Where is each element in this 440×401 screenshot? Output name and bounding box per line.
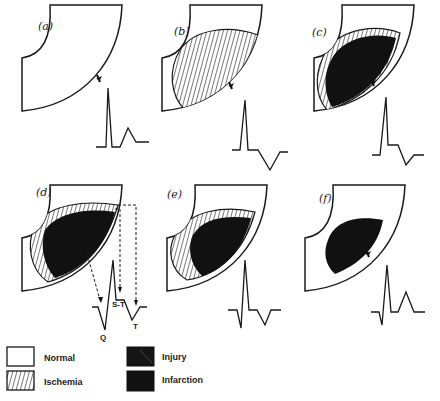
- legend-swatch-injury: [127, 347, 154, 366]
- ecg-trace-injury: [372, 97, 424, 165]
- panel-e: (e): [167, 185, 281, 328]
- st-segment-label: S-T: [112, 300, 125, 309]
- legend-label-injury: Injury: [162, 352, 187, 362]
- panel-label: (d): [36, 186, 52, 199]
- panel-b: (b): [162, 5, 288, 170]
- legend-swatch-ischemia: [7, 371, 34, 390]
- t-wave-label: T: [133, 322, 138, 331]
- panel-a: (a): [22, 5, 149, 147]
- legend-swatch-infarction: [127, 371, 154, 391]
- panel-label: (a): [38, 20, 53, 33]
- legend-label-normal: Normal: [44, 353, 75, 363]
- myocardial-infarction-diagram: (a) (b) (c) (d) Q S-T T: [0, 0, 440, 401]
- panel-f: (f): [305, 185, 425, 325]
- q-wave-label: Q: [100, 333, 106, 342]
- ecg-trace-evolving-infarction: [228, 260, 281, 328]
- ecg-trace-old-infarction: [371, 265, 425, 325]
- panel-label: (b): [174, 25, 190, 38]
- ecg-trace-ischemia: [232, 100, 288, 170]
- legend-swatch-normal: [7, 347, 34, 366]
- ecg-trace-normal: [96, 88, 149, 147]
- panel-label: (c): [312, 26, 327, 39]
- legend: Normal Ischemia Injury Infarction: [7, 347, 203, 391]
- panel-label: (f): [319, 192, 332, 205]
- legend-label-infarction: Infarction: [162, 375, 203, 385]
- panel-c: (c): [312, 5, 424, 165]
- panel-label: (e): [167, 188, 182, 201]
- panel-d: (d) Q S-T T: [22, 185, 147, 342]
- legend-label-ischemia: Ischemia: [44, 377, 84, 387]
